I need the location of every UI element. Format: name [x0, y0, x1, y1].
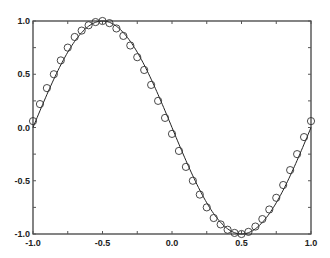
y-tick-label: 1.0 [17, 16, 30, 26]
y-tick-label: -1.0 [14, 229, 30, 239]
x-tick-label: 0.5 [235, 238, 248, 248]
tick-labels: -1.0-0.50.00.51.01.00.50.0-0.5-1.0 [14, 16, 317, 248]
sine-line [33, 21, 311, 234]
y-tick-label: 0.5 [17, 69, 30, 79]
y-tick-label: 0.0 [17, 123, 30, 133]
x-tick-label: 0.0 [166, 238, 179, 248]
x-tick-label: -0.5 [95, 238, 111, 248]
sample-point [210, 214, 217, 221]
sample-point [71, 33, 78, 40]
x-tick-label: -1.0 [25, 238, 41, 248]
sample-point [85, 22, 92, 29]
sine-chart: -1.0-0.50.00.51.01.00.50.0-0.5-1.0 [0, 0, 330, 258]
y-tick-label: -0.5 [14, 176, 30, 186]
sample-point [224, 226, 231, 233]
sine-curve [33, 21, 311, 234]
x-tick-label: 1.0 [305, 238, 318, 248]
